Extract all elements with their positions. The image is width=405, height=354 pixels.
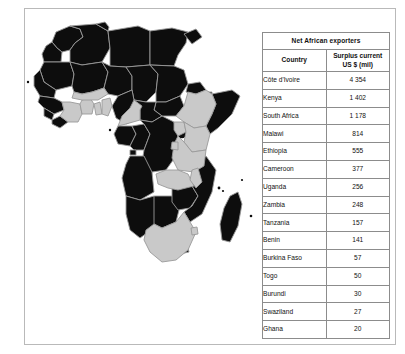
table-row[interactable]: Malawi 814 (263, 125, 390, 143)
table-row[interactable]: Ghana 20 (263, 321, 390, 339)
row-value: 57 (326, 249, 390, 267)
country-burundi (171, 142, 178, 150)
table-title-row: Net African exporters (263, 33, 390, 50)
africa-map-svg (26, 10, 254, 343)
table-row[interactable]: Tanzania 157 (263, 214, 390, 232)
column-header-surplus-line1: Surplus current (333, 52, 382, 59)
row-value: 1 402 (326, 89, 390, 107)
row-value: 50 (326, 267, 390, 285)
column-header-surplus-line2: US $ (mil) (343, 61, 373, 68)
row-value: 157 (326, 214, 390, 232)
table-row[interactable]: Zambia 248 (263, 196, 390, 214)
row-value: 20 (326, 321, 390, 339)
country-swaziland (191, 227, 198, 235)
row-value: 27 (326, 303, 390, 321)
table-header-row: Country Surplus current US $ (mil) (263, 50, 390, 72)
row-country: Côte d'Ivoire (263, 72, 327, 90)
row-country: Ethiopia (263, 143, 327, 161)
row-country: Ghana (263, 321, 327, 339)
row-value: 814 (326, 125, 390, 143)
country-zambia (156, 170, 194, 190)
table-row[interactable]: Ethiopia 555 (263, 143, 390, 161)
row-country: Burundi (263, 285, 327, 303)
country-madagascar (220, 192, 242, 242)
country-egypt (150, 28, 188, 66)
island-comoros-2 (222, 190, 224, 192)
country-cote-divoire (60, 102, 82, 122)
row-country: Togo (263, 267, 327, 285)
table-title: Net African exporters (263, 33, 390, 50)
island-cape-verde (27, 81, 29, 83)
row-country: Malawi (263, 125, 327, 143)
table-row[interactable]: South Africa 1 178 (263, 107, 390, 125)
row-value: 4 354 (326, 72, 390, 90)
figure-container: Net African exporters Country Surplus cu… (0, 0, 405, 354)
table-row[interactable]: Côte d'Ivoire 4 354 (263, 72, 390, 90)
row-country: Swaziland (263, 303, 327, 321)
table-row[interactable]: Benin 141 (263, 232, 390, 250)
country-togo (94, 102, 102, 115)
table-row[interactable]: Burkina Faso 57 (263, 249, 390, 267)
row-country: Zambia (263, 196, 327, 214)
country-cabinda (130, 150, 136, 155)
exporters-table: Net African exporters Country Surplus cu… (262, 32, 390, 339)
row-country: Uganda (263, 178, 327, 196)
table-row[interactable]: Cameroon 377 (263, 160, 390, 178)
row-value: 1 178 (326, 107, 390, 125)
column-header-country: Country (263, 50, 327, 72)
island-seychelles (241, 179, 243, 181)
country-benin (102, 98, 112, 116)
table-row[interactable]: Swaziland 27 (263, 303, 390, 321)
africa-map[interactable] (26, 10, 254, 343)
row-country: Tanzania (263, 214, 327, 232)
country-guinea (38, 96, 64, 114)
row-value: 30 (326, 285, 390, 303)
net-african-exporters-table[interactable]: Net African exporters Country Surplus cu… (262, 32, 390, 334)
column-header-surplus: Surplus current US $ (mil) (326, 50, 390, 72)
table-row[interactable]: Burundi 30 (263, 285, 390, 303)
island-comoros-1 (218, 187, 221, 190)
country-libya (108, 26, 150, 67)
row-country: Cameroon (263, 160, 327, 178)
row-country: Kenya (263, 89, 327, 107)
row-value: 141 (326, 232, 390, 250)
row-country: Benin (263, 232, 327, 250)
row-value: 377 (326, 160, 390, 178)
row-country: Burkina Faso (263, 249, 327, 267)
table-row[interactable]: Togo 50 (263, 267, 390, 285)
row-value: 555 (326, 143, 390, 161)
row-value: 248 (326, 196, 390, 214)
row-value: 256 (326, 178, 390, 196)
table-row[interactable]: Uganda 256 (263, 178, 390, 196)
island-mauritius (250, 215, 253, 218)
table-row[interactable]: Kenya 1 402 (263, 89, 390, 107)
row-country: South Africa (263, 107, 327, 125)
island-sao-tome (109, 129, 111, 131)
